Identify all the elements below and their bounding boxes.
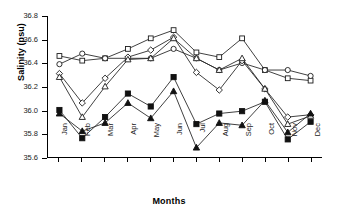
data-point-marker (239, 55, 245, 61)
data-point-marker (170, 88, 176, 94)
series-line (59, 37, 310, 117)
y-tick-label: 35.6 (12, 154, 38, 162)
y-tick-label: 36.8 (12, 12, 38, 20)
data-point-marker (148, 36, 153, 41)
series-4-open-triangle (56, 35, 313, 126)
data-point-marker (125, 100, 131, 106)
x-tick-label-dec: Dec (314, 123, 322, 163)
data-point-marker (217, 55, 222, 60)
series-line (59, 49, 310, 76)
data-point-marker (126, 47, 131, 52)
x-tick-label-mar: Mar (107, 123, 115, 163)
x-tick-mark (81, 158, 82, 162)
y-tick-label: 36.4 (12, 59, 38, 67)
x-tick-label-aug: Aug (222, 123, 230, 163)
data-point-marker (217, 111, 222, 116)
data-point-marker (148, 47, 154, 53)
x-tick-mark (127, 158, 128, 162)
data-point-marker (80, 58, 85, 63)
data-point-marker (171, 75, 176, 80)
data-point-marker (308, 78, 313, 83)
x-tick-label-jul: Jul (199, 123, 207, 163)
data-point-marker (171, 28, 176, 33)
data-point-marker (194, 50, 199, 55)
data-point-marker (285, 76, 290, 81)
y-tick-label: 35.8 (12, 130, 38, 138)
x-tick-label-jun: Jun (176, 123, 184, 163)
series-3-open-diamond (56, 34, 314, 120)
data-point-marker (148, 104, 153, 109)
x-tick-mark (265, 158, 266, 162)
data-point-marker (285, 67, 290, 72)
data-point-marker (171, 46, 176, 51)
x-tick-mark (311, 158, 312, 162)
data-point-marker (262, 67, 267, 72)
data-point-marker (57, 62, 62, 67)
data-point-marker (57, 54, 62, 59)
x-tick-mark (104, 158, 105, 162)
x-tick-mark (173, 158, 174, 162)
y-tick-mark (42, 158, 47, 159)
x-tick-label-oct: Oct (268, 123, 276, 163)
x-tick-mark (196, 158, 197, 162)
x-tick-mark (58, 158, 59, 162)
data-point-marker (239, 109, 244, 114)
data-point-marker (308, 73, 313, 78)
x-tick-label-may: May (153, 123, 161, 163)
x-tick-label-feb: Feb (84, 123, 92, 163)
x-tick-mark (150, 158, 151, 162)
x-tick-mark (242, 158, 243, 162)
x-tick-mark (288, 158, 289, 162)
data-point-marker (102, 56, 107, 61)
x-tick-label-nov: Nov (291, 123, 299, 163)
data-point-marker (240, 36, 245, 41)
x-tick-mark (219, 158, 220, 162)
x-tick-label-jan: Jan (61, 123, 69, 163)
x-tick-label-sep: Sep (245, 123, 253, 163)
data-point-marker (285, 137, 290, 142)
data-point-marker (125, 91, 130, 96)
y-tick-label: 36.6 (12, 36, 38, 44)
data-point-marker (80, 51, 85, 56)
salinity-monthly-line-chart: Salinity (psu) 36.836.636.436.236.035.83… (0, 0, 338, 213)
x-axis-title: Months (0, 196, 338, 206)
y-tick-label: 36.2 (12, 83, 38, 91)
y-tick-label: 36.0 (12, 107, 38, 115)
x-tick-label-apr: Apr (130, 123, 138, 163)
